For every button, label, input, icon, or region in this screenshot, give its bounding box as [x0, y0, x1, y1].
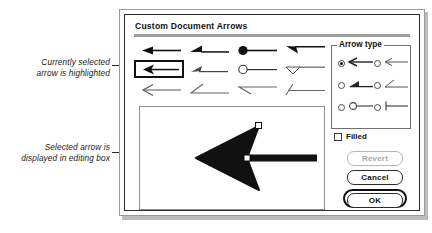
filled-checkbox[interactable] — [334, 133, 342, 141]
tee-end-arrow-icon — [383, 98, 409, 116]
arrow-selection-highlight — [134, 60, 184, 78]
arrow-editing-canvas[interactable] — [139, 106, 325, 210]
cancel-button[interactable]: Cancel — [347, 170, 403, 185]
arrow-type-option-6[interactable] — [374, 98, 409, 116]
open-v-arrow-icon — [347, 54, 375, 72]
arrow-sample-line-v[interactable] — [139, 81, 185, 100]
arrow-sample-filled-circle[interactable] — [235, 41, 281, 60]
radio-button[interactable] — [338, 104, 345, 111]
ok-button[interactable]: OK — [347, 193, 403, 208]
arrow-type-option-4[interactable] — [374, 76, 409, 94]
radio-button[interactable] — [338, 82, 345, 89]
thin-half-barb-arrow-icon — [383, 76, 409, 94]
arrow-type-option-3[interactable] — [338, 76, 375, 94]
revert-button[interactable]: Revert — [347, 151, 403, 166]
arrow-type-legend: Arrow type — [337, 40, 384, 49]
annotation-selected-highlight: Currently selected arrow is highlighted — [6, 57, 110, 79]
arrow-sample-open-half-barb[interactable] — [187, 60, 233, 79]
annotation-line-2: displayed in editing box — [2, 153, 110, 164]
arrow-type-option-1[interactable] — [338, 54, 375, 72]
arrow-sample-filled-barb[interactable] — [283, 41, 329, 60]
radio-button[interactable] — [374, 60, 381, 67]
arrow-type-option-5[interactable] — [338, 98, 375, 116]
arrow-sample-open-circle[interactable] — [235, 60, 281, 79]
radio-button[interactable] — [374, 82, 381, 89]
filled-half-barb-arrow-icon — [347, 76, 375, 94]
annotation-editing-box: Selected arrow is displayed in editing b… — [2, 142, 110, 164]
title-divider — [134, 34, 410, 37]
thin-v-arrow-icon — [383, 54, 409, 72]
annotation-line-1: Selected arrow is — [2, 142, 110, 153]
arrow-sample-open-triangle[interactable] — [283, 60, 329, 79]
arrow-sample-line-half-barb-down[interactable] — [235, 81, 281, 100]
annotation-line-2: arrow is highlighted — [6, 68, 110, 79]
arrow-sample-line-half-barb-up[interactable] — [187, 81, 233, 100]
arrow-sample-line-slash[interactable] — [283, 81, 329, 100]
dialog-inner-frame: Custom Document Arrows — [124, 14, 420, 211]
filled-checkbox-row[interactable]: Filled — [334, 132, 367, 141]
dialog-title: Custom Document Arrows — [135, 21, 247, 31]
circle-end-arrow-icon — [347, 98, 375, 116]
radio-button[interactable] — [374, 104, 381, 111]
arrow-sample-filled-half-barb[interactable] — [187, 41, 233, 60]
arrow-sample-filled-triangle[interactable] — [139, 41, 185, 60]
arrow-type-groupbox — [331, 45, 411, 129]
custom-document-arrows-dialog: Custom Document Arrows — [119, 9, 425, 216]
annotation-line-1: Currently selected — [6, 57, 110, 68]
radio-button[interactable] — [338, 60, 345, 67]
arrow-type-option-2[interactable] — [374, 54, 409, 72]
filled-checkbox-label: Filled — [346, 132, 367, 141]
